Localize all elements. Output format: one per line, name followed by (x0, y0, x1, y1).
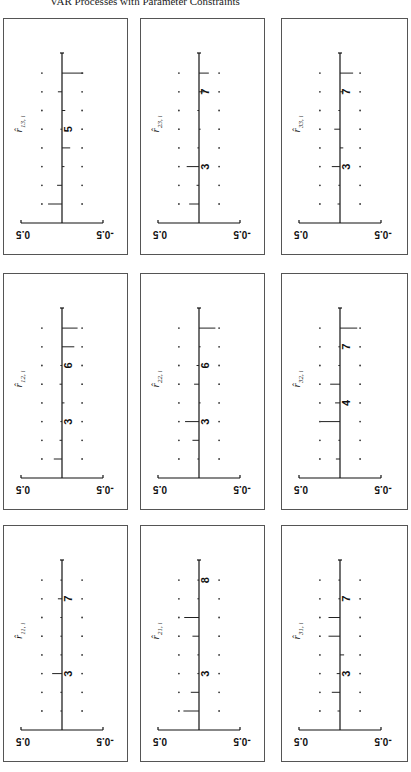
confidence-bound-dot (218, 72, 220, 74)
confidence-bound-dot (81, 710, 83, 712)
confidence-bound-dot (81, 184, 83, 186)
confidence-bound-dot (359, 673, 361, 675)
confidence-bound-dot (218, 147, 220, 149)
confidence-bound-dot (359, 691, 361, 693)
confidence-bound-dot (81, 203, 83, 205)
confidence-bound-dot (359, 128, 361, 130)
confidence-bound-dot (319, 439, 321, 441)
confidence-bound-dot (81, 421, 83, 423)
series-label: r̂32, i (290, 371, 305, 388)
confidence-bound-dot (359, 439, 361, 441)
lag-label: 7 (62, 596, 74, 602)
lag-label: 3 (340, 164, 352, 170)
confidence-bound-dot (81, 439, 83, 441)
confidence-bound-dot (81, 383, 83, 385)
panel-r32: 0.5-0.547r̂32, i (281, 273, 408, 510)
confidence-bound-dot (81, 110, 83, 112)
confidence-bound-dot (218, 421, 220, 423)
confidence-bound-dot (218, 635, 220, 637)
confidence-bound-dot (41, 166, 43, 168)
confidence-bound-dot (359, 710, 361, 712)
tick-label-neg: -0.5 (96, 484, 114, 495)
confidence-bound-dot (178, 203, 180, 205)
confidence-bound-dot (218, 654, 220, 656)
tick-label-pos: 0.5 (16, 229, 30, 240)
confidence-bound-dot (359, 579, 361, 581)
confidence-bound-dot (81, 166, 83, 168)
confidence-bound-dot (41, 203, 43, 205)
confidence-bound-dot (178, 383, 180, 385)
confidence-bound-dot (41, 72, 43, 74)
confidence-bound-dot (178, 691, 180, 693)
confidence-bound-dot (319, 128, 321, 130)
confidence-bound-dot (81, 579, 83, 581)
confidence-bound-dot (218, 439, 220, 441)
confidence-bound-dot (359, 365, 361, 367)
confidence-bound-dot (178, 91, 180, 93)
panel-r21: 0.5-0.538r̂21, i (140, 525, 265, 762)
confidence-bound-dot (81, 147, 83, 149)
confidence-bound-dot (41, 365, 43, 367)
confidence-bound-dot (81, 635, 83, 637)
panel-r11: 0.5-0.537r̂11, i (3, 525, 128, 762)
confidence-bound-dot (81, 91, 83, 93)
plot-r13: 0.5-0.55r̂13, i (4, 19, 129, 256)
lag-label: 7 (340, 596, 352, 602)
confidence-bound-dot (218, 673, 220, 675)
confidence-bound-dot (81, 617, 83, 619)
confidence-bound-dot (178, 710, 180, 712)
tick-label-pos: 0.5 (153, 736, 167, 747)
confidence-bound-dot (218, 365, 220, 367)
confidence-bound-dot (41, 327, 43, 329)
lag-label: 3 (199, 164, 211, 170)
series-label: r̂23, i (149, 116, 164, 133)
confidence-bound-dot (41, 691, 43, 693)
confidence-bound-dot (319, 617, 321, 619)
confidence-bound-dot (218, 346, 220, 348)
confidence-bound-dot (178, 72, 180, 74)
tick-label-pos: 0.5 (153, 229, 167, 240)
lag-label: 3 (340, 671, 352, 677)
confidence-bound-dot (178, 579, 180, 581)
confidence-bound-dot (359, 110, 361, 112)
lag-label: 7 (340, 344, 352, 350)
series-label: r̂31, i (290, 623, 305, 640)
series-label: r̂12, i (12, 371, 27, 388)
confidence-bound-dot (178, 458, 180, 460)
confidence-bound-dot (319, 203, 321, 205)
tick-label-neg: -0.5 (233, 229, 251, 240)
confidence-bound-dot (359, 617, 361, 619)
confidence-bound-dot (218, 617, 220, 619)
confidence-bound-dot (218, 184, 220, 186)
tick-label-pos: 0.5 (16, 736, 30, 747)
confidence-bound-dot (41, 654, 43, 656)
confidence-bound-dot (41, 147, 43, 149)
lag-label: 4 (340, 399, 352, 406)
confidence-bound-dot (218, 458, 220, 460)
confidence-bound-dot (359, 327, 361, 329)
confidence-bound-dot (178, 617, 180, 619)
confidence-bound-dot (178, 402, 180, 404)
tick-label-pos: 0.5 (294, 229, 308, 240)
confidence-bound-dot (41, 383, 43, 385)
confidence-bound-dot (319, 654, 321, 656)
lag-label: 7 (199, 89, 211, 95)
tick-label-pos: 0.5 (294, 484, 308, 495)
confidence-bound-dot (319, 147, 321, 149)
confidence-bound-dot (218, 203, 220, 205)
lag-label: 3 (199, 671, 211, 677)
confidence-bound-dot (319, 383, 321, 385)
confidence-bound-dot (359, 458, 361, 460)
confidence-bound-dot (81, 365, 83, 367)
confidence-bound-dot (178, 365, 180, 367)
confidence-bound-dot (218, 128, 220, 130)
confidence-bound-dot (41, 421, 43, 423)
tick-label-pos: 0.5 (153, 484, 167, 495)
confidence-bound-dot (81, 402, 83, 404)
confidence-bound-dot (41, 128, 43, 130)
confidence-bound-dot (178, 110, 180, 112)
confidence-bound-dot (41, 617, 43, 619)
series-label: r̂22, i (149, 371, 164, 388)
confidence-bound-dot (41, 184, 43, 186)
confidence-bound-dot (359, 184, 361, 186)
